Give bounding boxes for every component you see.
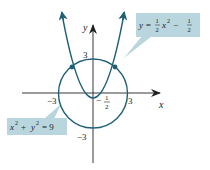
parabola-eq-x: x — [161, 20, 166, 30]
parabola-frac1-num: 1 — [156, 17, 159, 24]
circle-equation-callout: x 2 + y 2 = 9 — [7, 118, 67, 135]
y-tick-neg3: −3 — [77, 132, 87, 142]
y-axis-label: y — [82, 22, 88, 33]
circle-eq-y: y — [30, 122, 35, 132]
vertex-label: − 1 2 — [96, 94, 110, 111]
circle-eq-x: x — [9, 122, 14, 132]
x-axis-label: x — [158, 99, 164, 110]
intersection-point-right — [113, 65, 118, 70]
parabola-frac2-den: 2 — [188, 26, 191, 33]
x-tick-3: 3 — [128, 96, 133, 106]
parabola-frac1-den: 2 — [156, 26, 159, 33]
parabola-callout-tail — [124, 36, 152, 58]
circle-eq-plus: + — [21, 122, 26, 132]
vertex-label-num: 1 — [105, 94, 109, 102]
y-tick-3: 3 — [83, 50, 88, 60]
parabola-right-arrow — [123, 12, 124, 20]
parabola-eq-lhs: y = — [138, 20, 151, 30]
vertex-label-den: 2 — [105, 103, 109, 111]
parabola-eq-exp: 2 — [167, 18, 170, 24]
parabola-left-arrow — [62, 12, 63, 20]
circle-eq-y-exp: 2 — [36, 120, 39, 126]
parabola-frac2-num: 1 — [188, 17, 191, 24]
circle-eq-x-exp: 2 — [15, 120, 18, 126]
parabola-eq-minus: − — [173, 20, 178, 30]
circle-callout-tail — [44, 104, 61, 119]
x-tick-neg3: −3 — [47, 96, 57, 106]
vertex-label-minus: − — [96, 95, 101, 105]
graph-figure: y x 3 −3 −3 3 − 1 2 y = 1 2 x 2 − 1 2 x … — [0, 0, 210, 170]
circle-eq-rhs: = 9 — [42, 122, 54, 132]
parabola-equation-callout: y = 1 2 x 2 − 1 2 — [136, 13, 200, 37]
intersection-point-left — [70, 65, 75, 70]
